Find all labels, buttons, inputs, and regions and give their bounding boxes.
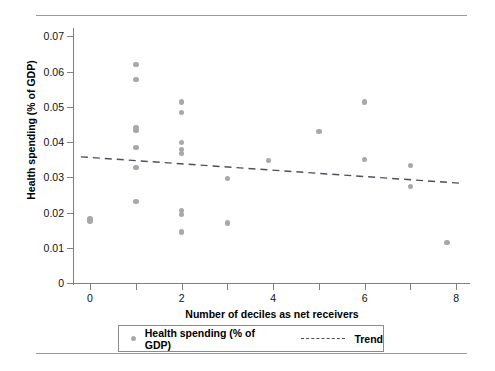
y-tick bbox=[67, 248, 74, 249]
data-point bbox=[133, 62, 138, 67]
data-point bbox=[133, 145, 138, 150]
y-tick-label: 0 bbox=[0, 278, 64, 288]
data-point bbox=[225, 220, 230, 225]
scatter-marker-icon bbox=[131, 336, 136, 341]
x-tick-label: 8 bbox=[441, 292, 471, 304]
data-point bbox=[444, 240, 449, 245]
y-tick bbox=[67, 36, 74, 37]
legend-item-scatter[interactable]: Health spending (% of GDP) bbox=[131, 327, 267, 351]
data-point bbox=[133, 77, 138, 82]
legend-label-scatter: Health spending (% of GDP) bbox=[145, 327, 268, 351]
x-tick-label: 4 bbox=[258, 292, 288, 304]
top-rule bbox=[36, 15, 467, 16]
legend-item-trend[interactable]: Trend bbox=[301, 333, 383, 345]
x-tick bbox=[136, 283, 137, 290]
bottom-rule bbox=[36, 353, 467, 354]
data-point bbox=[133, 128, 138, 133]
legend-label-trend: Trend bbox=[354, 333, 383, 345]
data-point bbox=[179, 229, 184, 234]
plot-area bbox=[74, 31, 470, 283]
x-tick-label: 2 bbox=[167, 292, 197, 304]
data-point bbox=[362, 157, 367, 162]
data-point bbox=[179, 110, 184, 115]
data-point bbox=[408, 184, 413, 189]
x-axis-title: Number of deciles as net receivers bbox=[74, 308, 470, 320]
x-tick bbox=[365, 283, 366, 290]
figure: 00.010.020.030.040.050.060.07 02468 Heal… bbox=[0, 0, 495, 371]
data-point bbox=[179, 99, 184, 104]
x-tick-label: 6 bbox=[350, 292, 380, 304]
data-point bbox=[179, 151, 184, 156]
x-tick bbox=[319, 283, 320, 290]
data-point bbox=[133, 199, 138, 204]
y-tick bbox=[67, 177, 74, 178]
y-axis-title: Health spending (% of GDP) bbox=[25, 15, 37, 245]
data-point bbox=[362, 99, 367, 104]
data-point bbox=[266, 158, 271, 163]
x-tick bbox=[227, 283, 228, 290]
y-tick bbox=[67, 107, 74, 108]
data-point bbox=[316, 129, 321, 134]
y-tick bbox=[67, 213, 74, 214]
data-point bbox=[133, 165, 138, 170]
data-point bbox=[225, 176, 230, 181]
legend: Health spending (% of GDP) Trend bbox=[118, 325, 384, 352]
x-tick bbox=[456, 283, 457, 290]
x-tick bbox=[273, 283, 274, 290]
data-point bbox=[179, 140, 184, 145]
y-tick bbox=[67, 72, 74, 73]
x-tick-label: 0 bbox=[75, 292, 105, 304]
x-tick bbox=[410, 283, 411, 290]
data-point bbox=[87, 218, 92, 223]
x-tick bbox=[90, 283, 91, 290]
x-tick bbox=[182, 283, 183, 290]
data-point bbox=[408, 163, 413, 168]
trend-line-icon bbox=[301, 338, 345, 339]
data-point bbox=[179, 212, 184, 217]
y-tick bbox=[67, 283, 74, 284]
y-tick bbox=[67, 142, 74, 143]
